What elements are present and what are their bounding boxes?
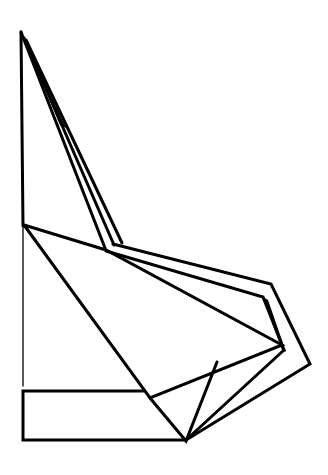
center-kite <box>24 225 282 398</box>
fan-line-3 <box>26 40 122 243</box>
bottom-rectangle <box>23 391 184 440</box>
apex-wedge <box>21 32 66 128</box>
diagram-svg <box>0 0 328 475</box>
fan-line-1 <box>21 32 105 248</box>
left-edge-upper <box>21 32 23 226</box>
origami-diagram <box>0 0 328 475</box>
